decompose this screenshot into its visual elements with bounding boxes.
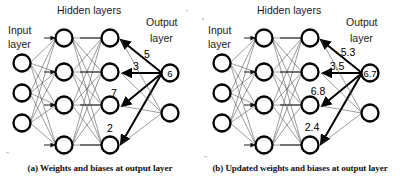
input-node-3 (214, 115, 231, 132)
weight-label-top: 5 (144, 48, 150, 60)
edges-hidden2-stubs (80, 38, 101, 145)
hidden1-node-3 (256, 97, 273, 114)
hidden-layers-label: Hidden layers (257, 4, 321, 16)
panel-a-network-diagram: 6 Input layer Hidden layers Output layer… (0, 0, 200, 162)
weight-label-third: 6.8 (311, 85, 326, 97)
figure-root: 6 Input layer Hidden layers Output layer… (0, 0, 400, 188)
input-node-1 (214, 55, 231, 72)
output-layer-nodes: 6.7 (362, 65, 379, 122)
edges-hidden2-stubs (280, 38, 301, 145)
output-layer-label-line2: layer (150, 32, 173, 44)
edges-hidden1-to-hidden2 (272, 38, 302, 145)
output-node-2 (362, 105, 379, 122)
input-node-2 (214, 85, 231, 102)
hidden1-node-3 (56, 97, 73, 114)
weight-label-top: 5.3 (341, 46, 356, 58)
input-layer-label-line1: Input (208, 24, 231, 36)
output-node-1-value: 6.7 (363, 68, 376, 79)
hidden2-node-1 (102, 30, 119, 47)
weight-label-bottom: 2 (107, 122, 113, 134)
output-node-2 (162, 105, 179, 122)
panel-b-caption: (b) Updated weights and biases at output… (200, 163, 400, 173)
hidden-layers-label: Hidden layers (57, 4, 121, 16)
hidden2-node-4 (102, 137, 119, 154)
input-layer-nodes (214, 55, 231, 132)
edges-input-to-hidden1 (230, 38, 256, 145)
hidden1-node-1 (56, 30, 73, 47)
output-node-1-value: 6 (167, 68, 172, 79)
hidden2-node-1 (302, 30, 319, 47)
input-layer-nodes (14, 55, 31, 132)
hidden2-node-2 (102, 64, 119, 81)
output-layer-label-line1: Output (146, 16, 178, 28)
hidden1-node-2 (56, 64, 73, 81)
hidden1-node-4 (256, 137, 273, 154)
edges-output-to-hidden2 (121, 40, 162, 144)
input-layer-label-line2: layer (208, 38, 231, 50)
panel-a-caption: (a) Weights and biases at output layer (0, 163, 200, 173)
hidden-layer-1-nodes (56, 30, 73, 154)
scan-noise (202, 18, 207, 157)
panel-b-network-diagram: 6.7 Input layer Hidden layers Output lay… (200, 0, 400, 162)
hidden2-node-3 (102, 97, 119, 114)
input-layer-label-line2: layer (8, 38, 31, 50)
hidden-layer-1-nodes (256, 30, 273, 154)
input-node-2 (14, 85, 31, 102)
output-layer-nodes: 6 (162, 65, 179, 122)
input-layer-label-line1: Input (8, 24, 31, 36)
weight-label-second: 3.5 (330, 60, 345, 72)
edges-input-to-hidden1 (30, 38, 56, 145)
weight-label-third: 7 (111, 87, 117, 99)
hidden1-node-2 (256, 64, 273, 81)
output-layer-label-line2: layer (350, 32, 373, 44)
panel-b: 6.7 Input layer Hidden layers Output lay… (200, 0, 400, 188)
hidden1-node-1 (256, 30, 273, 47)
hidden1-node-4 (56, 137, 73, 154)
hidden2-node-3 (302, 97, 319, 114)
input-node-3 (14, 115, 31, 132)
panel-a: 6 Input layer Hidden layers Output layer… (0, 0, 200, 188)
weight-label-bottom: 2.4 (305, 121, 320, 133)
weight-label-second: 3 (133, 60, 139, 72)
output-layer-label-line1: Output (346, 16, 378, 28)
hidden2-node-2 (302, 64, 319, 81)
edges-hidden1-to-hidden2 (72, 38, 102, 145)
hidden2-node-4 (302, 137, 319, 154)
input-node-1 (14, 55, 31, 72)
